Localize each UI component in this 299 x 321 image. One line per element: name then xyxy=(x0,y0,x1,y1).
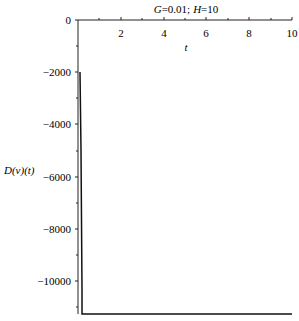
svg-text:2: 2 xyxy=(118,27,124,39)
svg-text:−8000: −8000 xyxy=(43,223,72,235)
svg-text:−2000: −2000 xyxy=(43,66,72,78)
y-tick-labels: 0 −2000 −4000 −6000 −8000 −10000 xyxy=(37,14,71,287)
chart: G=0.01;H=10 2 4 6 8 10 t 0 xyxy=(0,0,298,321)
svg-text:10: 10 xyxy=(287,27,299,39)
data-series-line xyxy=(80,72,292,314)
svg-text:4: 4 xyxy=(161,27,167,39)
x-tick-labels: 2 4 6 8 10 xyxy=(118,27,298,39)
svg-text:−10000: −10000 xyxy=(37,275,71,287)
chart-title: G=0.01;H=10 xyxy=(154,3,219,15)
svg-text:−6000: −6000 xyxy=(43,171,72,183)
svg-text:0: 0 xyxy=(66,14,72,26)
svg-text:−4000: −4000 xyxy=(43,118,72,130)
svg-text:8: 8 xyxy=(246,27,252,39)
y-axis-label: D(v)(t) xyxy=(3,164,35,177)
svg-text:6: 6 xyxy=(203,27,209,39)
x-axis-label: t xyxy=(184,41,188,53)
